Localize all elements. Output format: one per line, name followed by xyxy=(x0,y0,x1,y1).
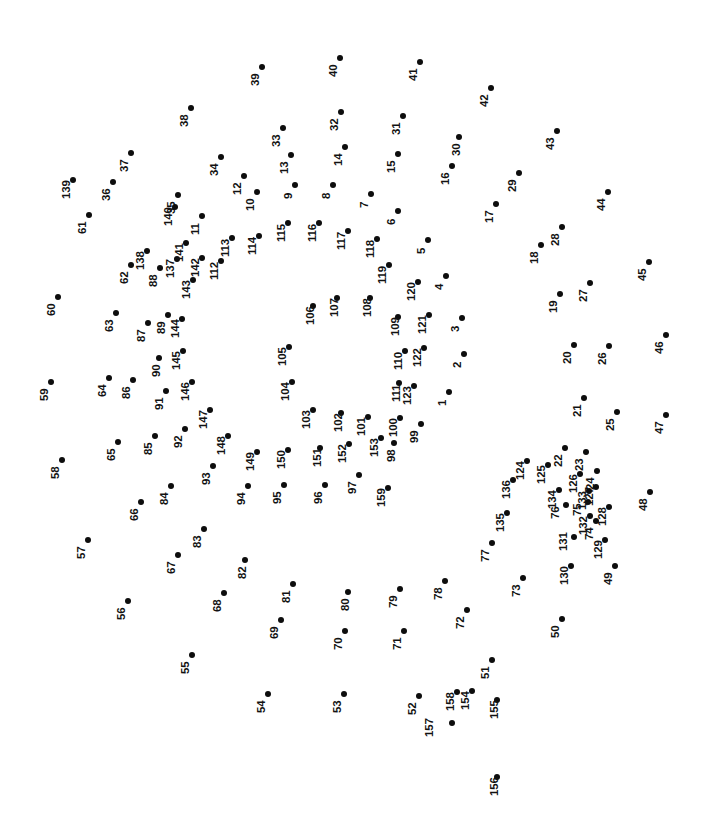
dot-label-124: 124 xyxy=(515,461,527,480)
dot-label-20: 20 xyxy=(562,352,574,364)
dot-label-147: 147 xyxy=(198,410,210,429)
dot-marker-37 xyxy=(128,150,134,156)
dot-label-83: 83 xyxy=(192,536,204,548)
dot-marker-35 xyxy=(175,192,181,198)
dot-marker-98 xyxy=(391,440,397,446)
dot-marker-77 xyxy=(489,540,495,546)
dot-label-30: 30 xyxy=(451,144,463,156)
dot-marker-63 xyxy=(113,310,119,316)
dot-label-87: 87 xyxy=(136,330,148,342)
dot-label-144: 144 xyxy=(170,319,182,338)
dot-marker-16 xyxy=(449,163,455,169)
dot-label-141: 141 xyxy=(174,243,186,262)
dot-label-58: 58 xyxy=(50,467,62,479)
dot-marker-38 xyxy=(188,105,194,111)
dot-marker-41 xyxy=(417,59,423,65)
dot-label-113: 113 xyxy=(220,239,232,257)
dot-label-119: 119 xyxy=(377,266,389,284)
dot-marker-7 xyxy=(368,191,374,197)
dot-label-110: 110 xyxy=(393,352,405,370)
dot-label-156: 156 xyxy=(489,777,501,796)
dot-label-8: 8 xyxy=(321,193,333,199)
dot-label-55: 55 xyxy=(180,662,192,674)
dot-label-80: 80 xyxy=(340,599,352,611)
dot-label-32: 32 xyxy=(329,119,341,131)
dot-label-140: 140 xyxy=(163,207,175,226)
dot-label-122: 122 xyxy=(412,348,424,367)
dot-label-71: 71 xyxy=(392,638,404,650)
dot-label-102: 102 xyxy=(333,413,345,432)
dot-label-68: 68 xyxy=(212,600,224,612)
dot-label-14: 14 xyxy=(333,154,345,166)
dot-marker-46 xyxy=(663,332,669,338)
dot-label-50: 50 xyxy=(550,626,562,638)
dot-marker-25 xyxy=(614,409,620,415)
dot-marker-95 xyxy=(281,482,287,488)
dot-label-115: 115 xyxy=(276,224,288,242)
dot-label-54: 54 xyxy=(256,701,268,713)
dot-label-104: 104 xyxy=(280,382,292,401)
dot-label-121: 121 xyxy=(417,315,429,334)
dot-marker-55 xyxy=(189,652,195,658)
dot-marker-78 xyxy=(442,578,448,584)
dot-label-136: 136 xyxy=(501,480,513,499)
dot-label-142: 142 xyxy=(190,258,202,277)
dot-label-48: 48 xyxy=(638,499,650,511)
dot-marker-48 xyxy=(647,489,653,495)
dot-marker-10 xyxy=(254,189,260,195)
dot-label-46: 46 xyxy=(654,342,666,354)
dot-label-6: 6 xyxy=(386,219,398,225)
dot-marker-71 xyxy=(401,628,407,634)
dot-marker-32 xyxy=(338,109,344,115)
dot-label-133: 133 xyxy=(577,491,589,510)
dot-marker-5 xyxy=(425,237,431,243)
dot-marker-47 xyxy=(663,412,669,418)
dot-label-11: 11 xyxy=(190,223,202,235)
dot-label-52: 52 xyxy=(407,703,419,715)
dot-label-98: 98 xyxy=(386,450,398,462)
dot-marker-99 xyxy=(418,421,424,427)
dot-label-10: 10 xyxy=(245,199,257,211)
dot-label-33: 33 xyxy=(271,135,283,147)
dot-marker-34 xyxy=(218,154,224,160)
dot-label-77: 77 xyxy=(480,550,492,562)
dot-marker-1 xyxy=(446,389,452,395)
dot-label-92: 92 xyxy=(173,436,185,448)
dot-marker-57 xyxy=(85,537,91,543)
dot-marker-26 xyxy=(606,343,612,349)
dot-marker-90 xyxy=(156,355,162,361)
dot-label-145: 145 xyxy=(171,351,183,370)
dot-marker-70 xyxy=(342,628,348,634)
dot-label-109: 109 xyxy=(390,317,402,336)
dot-marker-42 xyxy=(488,85,494,91)
dot-marker-24 xyxy=(594,468,600,474)
connect-the-dots-canvas: 1234567891011121314151617181920212223242… xyxy=(0,0,711,814)
dot-label-65: 65 xyxy=(106,449,118,461)
dot-marker-85 xyxy=(152,433,158,439)
dot-marker-76 xyxy=(563,502,569,508)
dot-label-12: 12 xyxy=(232,183,244,195)
dot-label-64: 64 xyxy=(97,385,109,397)
dot-marker-33 xyxy=(280,125,286,131)
dot-label-67: 67 xyxy=(166,562,178,574)
dot-label-106: 106 xyxy=(305,306,317,325)
dot-label-114: 114 xyxy=(247,237,259,255)
dot-label-90: 90 xyxy=(151,365,163,377)
dot-label-132: 132 xyxy=(578,516,590,535)
dot-label-126: 126 xyxy=(568,474,580,493)
dot-label-59: 59 xyxy=(39,389,51,401)
dot-marker-4 xyxy=(443,273,449,279)
dot-label-17: 17 xyxy=(484,211,496,223)
dot-marker-23 xyxy=(583,449,589,455)
dot-label-38: 38 xyxy=(179,115,191,127)
dot-label-69: 69 xyxy=(269,627,281,639)
dot-label-70: 70 xyxy=(333,638,345,650)
dot-marker-91 xyxy=(163,388,169,394)
dot-label-107: 107 xyxy=(329,298,341,317)
dot-label-16: 16 xyxy=(440,173,452,185)
dot-marker-59 xyxy=(48,379,54,385)
dot-label-125: 125 xyxy=(536,465,548,484)
dot-label-1: 1 xyxy=(437,400,449,406)
dot-marker-44 xyxy=(605,189,611,195)
dot-marker-94 xyxy=(245,483,251,489)
